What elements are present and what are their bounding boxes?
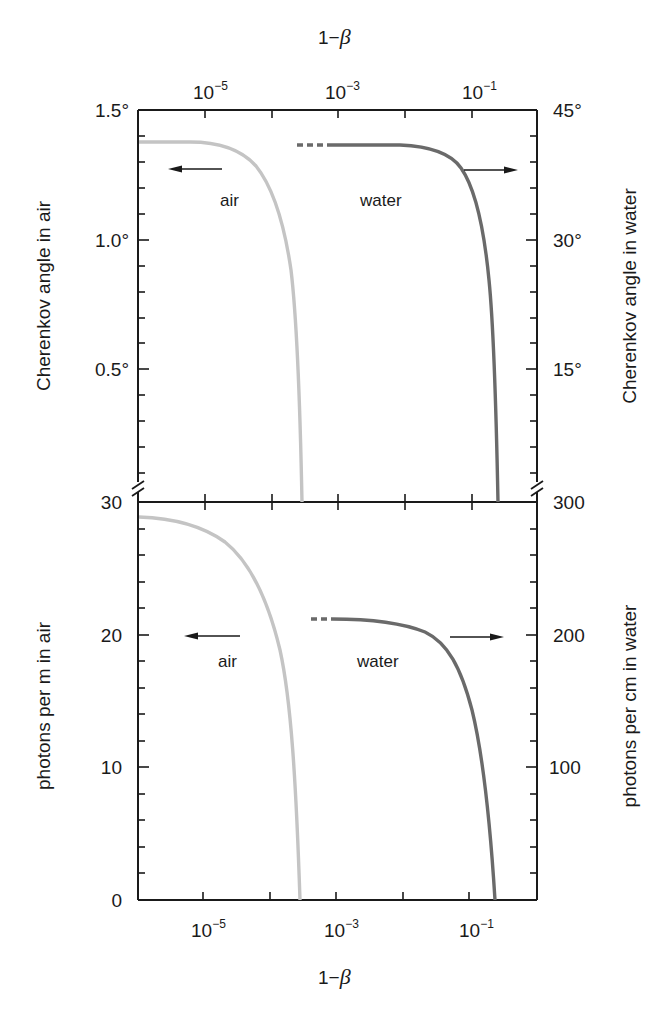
cherenkov-figure: 1−β 10−5 10−3 10−1 — [0, 0, 672, 1019]
top-x-axis-title: 1−β — [318, 24, 351, 49]
svg-text:30°: 30° — [553, 230, 582, 251]
svg-text:100: 100 — [549, 757, 581, 778]
svg-text:200: 200 — [553, 625, 585, 646]
top-right-y-tick-labels: 45° 30° 15° — [553, 100, 582, 380]
bottom-x-axis-title: 1−β — [318, 964, 351, 989]
bottom-air-arrow-icon — [184, 633, 240, 640]
bottom-x-tick-labels: 10−5 10−3 10−1 — [191, 917, 494, 941]
top-air-arrow-icon — [168, 166, 222, 173]
bottom-air-label: air — [218, 652, 237, 671]
top-left-y-tick-labels: 1.5° 1.0° 0.5° — [95, 100, 129, 380]
top-water-label: water — [359, 191, 402, 210]
top-water-curve — [328, 145, 498, 502]
svg-text:300: 300 — [553, 492, 585, 513]
svg-text:10−3: 10−3 — [325, 79, 360, 103]
bottom-left-y-ticks — [138, 529, 149, 873]
svg-text:15°: 15° — [553, 359, 582, 380]
svg-text:10−3: 10−3 — [324, 917, 359, 941]
svg-text:10: 10 — [101, 757, 122, 778]
bottom-air-curve — [139, 517, 300, 900]
svg-text:45°: 45° — [553, 100, 582, 121]
svg-text:10−5: 10−5 — [191, 917, 226, 941]
top-right-axis-title: Cherenkov angle in water — [619, 188, 640, 404]
svg-text:0: 0 — [111, 890, 122, 911]
x-ticks — [203, 110, 472, 900]
top-x-tick-labels: 10−5 10−3 10−1 — [193, 79, 497, 103]
top-left-axis-title: Cherenkov angle in air — [33, 200, 54, 391]
bottom-water-label: water — [356, 652, 399, 671]
axis-break-marks — [132, 481, 543, 496]
top-right-y-ticks — [526, 136, 537, 473]
bottom-right-y-tick-labels: 300 200 100 — [549, 492, 585, 778]
top-water-arrow-icon — [464, 167, 518, 174]
bottom-right-axis-title: photons per cm in water — [619, 604, 640, 807]
svg-text:20: 20 — [101, 625, 122, 646]
svg-text:0.5°: 0.5° — [95, 359, 129, 380]
svg-text:10−1: 10−1 — [459, 917, 494, 941]
svg-text:10−5: 10−5 — [193, 79, 228, 103]
top-air-label: air — [220, 191, 239, 210]
bottom-right-y-ticks — [526, 529, 537, 873]
svg-text:1.0°: 1.0° — [95, 230, 129, 251]
bottom-left-y-tick-labels: 30 20 10 0 — [101, 492, 122, 911]
bottom-water-arrow-icon — [450, 634, 504, 641]
svg-text:30: 30 — [101, 492, 122, 513]
svg-text:1.5°: 1.5° — [95, 100, 129, 121]
top-left-y-ticks — [138, 136, 149, 473]
bottom-left-axis-title: photons per m in air — [33, 621, 54, 790]
svg-text:10−1: 10−1 — [462, 79, 497, 103]
